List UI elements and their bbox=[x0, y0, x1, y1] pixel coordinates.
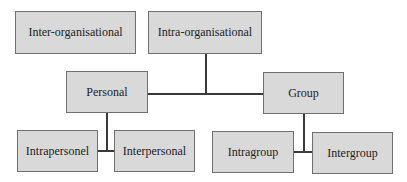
connector-intra-org-down bbox=[205, 54, 207, 94]
node-label: Intragroup bbox=[228, 145, 279, 160]
node-label: Inter-organisational bbox=[28, 25, 122, 40]
connector-group-down bbox=[303, 114, 305, 152]
connector-personal-down bbox=[106, 113, 108, 151]
node-label: Group bbox=[288, 86, 319, 101]
node-personal: Personal bbox=[66, 71, 148, 113]
node-intragroup: Intragroup bbox=[212, 131, 294, 173]
node-intra-organisational: Intra-organisational bbox=[148, 11, 262, 54]
conflict-levels-diagram: Inter-organisational Intra-organisationa… bbox=[0, 0, 407, 182]
node-interpersonal: Interpersonal bbox=[114, 130, 195, 172]
node-label: Intrapersonel bbox=[26, 144, 89, 159]
node-intergroup: Intergroup bbox=[312, 132, 393, 174]
connector-personal-group bbox=[148, 93, 263, 95]
node-inter-organisational: Inter-organisational bbox=[15, 11, 136, 54]
connector-intrapersonel-interpersonal bbox=[98, 150, 114, 152]
node-intrapersonel: Intrapersonel bbox=[17, 130, 98, 172]
node-label: Personal bbox=[86, 85, 127, 100]
connector-intragroup-intergroup bbox=[294, 151, 312, 153]
node-label: Intra-organisational bbox=[158, 25, 252, 40]
node-group: Group bbox=[263, 72, 344, 114]
node-label: Intergroup bbox=[327, 146, 377, 161]
node-label: Interpersonal bbox=[123, 144, 186, 159]
